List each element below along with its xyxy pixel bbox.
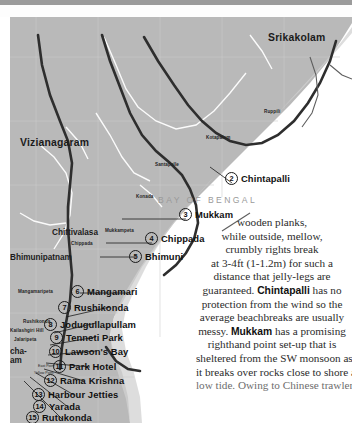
article-line-6-pre: guaranteed. xyxy=(202,284,257,296)
article-line-1: wooden planks, xyxy=(196,216,348,230)
article-line-2: while outside, mellow, xyxy=(196,230,348,244)
article-line-5: distance that jelly-legs are xyxy=(196,270,348,284)
article-line-4: at 3-4ft (1-1.2m) for such a xyxy=(196,257,348,271)
map-label-mangamaripeta: Mangamaripeta xyxy=(18,289,53,294)
callout-15-rutukonda[interactable]: 15 Rutukonda xyxy=(26,411,92,423)
callout-label: Tenneti Park xyxy=(66,332,123,343)
article-line-10: righthand point set-up that is xyxy=(196,338,348,352)
callout-number: 2 xyxy=(225,172,238,185)
article-line-13-clipped: low tide. Owing to Chinese trawlers, the xyxy=(196,379,348,393)
callout-7-rushikonda[interactable]: 7 Rushikonda xyxy=(58,301,129,314)
callout-number: 12 xyxy=(44,374,57,387)
map-label-mukkampeta: Mukkampeta xyxy=(105,228,134,233)
callout-9-tenneti-park[interactable]: 9 Tenneti Park xyxy=(50,331,123,344)
callout-number: 3 xyxy=(179,208,192,221)
callout-label: Rushikonda xyxy=(74,302,129,313)
article-text-column: wooden planks, while outside, mellow, cr… xyxy=(196,216,348,393)
spot-name-mukkam: Mukkam xyxy=(231,326,272,337)
map-label-vizianagaram: Vizianagaram xyxy=(20,137,89,148)
callout-number: 9 xyxy=(50,331,63,344)
article-line-6: guaranteed. Chintapalli has no xyxy=(196,284,348,298)
map-label-ruppili: Ruppili xyxy=(264,109,280,114)
article-line-7: protection from the wind so the xyxy=(196,298,348,312)
callout-number: 10 xyxy=(49,345,62,358)
map-label-chittivalasa: Chittivalasa xyxy=(52,228,98,237)
callout-label: Jodugullapullam xyxy=(60,319,136,330)
map-label-city-cut-line2: am xyxy=(10,356,22,365)
callout-label: Chintapalli xyxy=(241,173,290,184)
spot-name-chintapalli: Chintapalli xyxy=(257,285,310,296)
callout-number: 6 xyxy=(71,285,84,298)
article-line-8: average beachbreaks are usually xyxy=(196,311,348,325)
map-label-konada: Konada xyxy=(136,194,153,199)
callout-number: 11 xyxy=(53,360,66,373)
article-line-6-post: has no xyxy=(310,284,342,296)
callout-label: Harbour Jetties xyxy=(48,389,118,400)
scan-strip-light xyxy=(0,5,352,17)
map-label-bhimunipatnam: Bhimunipatnam xyxy=(10,253,72,262)
article-line-9-pre: messy. xyxy=(198,325,231,337)
callout-8-jodugullapullam[interactable]: 8 Jodugullapullam xyxy=(44,318,136,331)
callout-number: 7 xyxy=(58,301,71,314)
callout-6-mangamari[interactable]: 6 Mangamari xyxy=(71,285,137,298)
callout-number: 4 xyxy=(145,232,158,245)
callout-label: Rutukonda xyxy=(42,412,92,423)
map-label-kailashgiri-hill: Kailashgiri Hill xyxy=(10,328,44,333)
article-line-12: it breaks over rocks close to shore at xyxy=(196,366,348,380)
screenshot-root: Srikakolam Vizianagaram Chittivalasa Bhi… xyxy=(0,0,352,423)
article-line-11: sheltered from the SW monsoon as xyxy=(196,352,348,366)
callout-label: Mangamari xyxy=(87,286,137,297)
callout-label: Park Hotel xyxy=(69,361,116,372)
map-label-jalaripeta: Jalaripeta xyxy=(14,337,36,342)
map-label-east-point: East Point xyxy=(38,364,54,368)
map-label-srikakolam: Srikakolam xyxy=(268,32,325,43)
article-line-9: messy. Mukkam has a promising xyxy=(196,325,348,339)
map-label-city-cut-line1: cha- xyxy=(10,347,27,356)
callout-label: Bhimuni xyxy=(145,251,183,262)
callout-number: 8 xyxy=(44,318,57,331)
callout-number: 15 xyxy=(26,411,39,423)
callout-label: Rama Krishna xyxy=(60,375,124,386)
callout-11-park-hotel[interactable]: 11 Park Hotel xyxy=(53,360,116,373)
article-line-3: crumbly rights break xyxy=(196,243,348,257)
map-label-santapalle: Santapalle xyxy=(155,162,179,167)
sea-label-bay-of-bengal: BAY OF BENGAL xyxy=(158,195,257,205)
callout-label: Lawson's Bay xyxy=(65,346,128,357)
callout-2-chintapalli[interactable]: 2 Chintapalli xyxy=(225,172,290,185)
callout-5-bhimuni[interactable]: 5 Bhimuni xyxy=(129,250,183,263)
article-line-9-post: has a promising xyxy=(272,325,346,337)
callout-number: 5 xyxy=(129,250,142,263)
map-label-chippada: Chippada xyxy=(71,241,93,246)
map-label-kotapalem: Kotapalem xyxy=(206,135,230,140)
callout-12-rama-krishna[interactable]: 12 Rama Krishna xyxy=(44,374,124,387)
callout-10-lawsons-bay[interactable]: 10 Lawson's Bay xyxy=(49,345,128,358)
